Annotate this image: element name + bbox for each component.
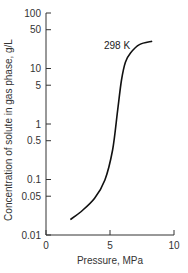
series-line-298k bbox=[70, 41, 152, 219]
y-tick-label: 5 bbox=[35, 80, 41, 91]
y-tick-label: 0.5 bbox=[27, 135, 41, 146]
x-axis-title: Pressure, MPa bbox=[77, 255, 144, 266]
chart: 1005010510.50.10.050.010510 298 K Pressu… bbox=[0, 0, 188, 273]
curve-annotation: 298 K bbox=[104, 40, 130, 51]
x-tick-label: 5 bbox=[107, 240, 113, 251]
y-tick-label: 100 bbox=[24, 8, 41, 19]
y-axis-title: Concentration of solute in gas phase, g/… bbox=[3, 39, 14, 221]
y-tick-label: 0.1 bbox=[27, 174, 41, 185]
x-tick-label: 0 bbox=[43, 240, 49, 251]
x-tick-label: 10 bbox=[168, 240, 180, 251]
y-tick-label: 0.01 bbox=[22, 230, 42, 241]
ticks: 1005010510.50.10.050.010510 bbox=[22, 8, 180, 252]
y-tick-label: 0.05 bbox=[22, 191, 42, 202]
y-tick-label: 10 bbox=[30, 63, 42, 74]
y-tick-label: 50 bbox=[30, 24, 42, 35]
y-tick-label: 1 bbox=[35, 119, 41, 130]
